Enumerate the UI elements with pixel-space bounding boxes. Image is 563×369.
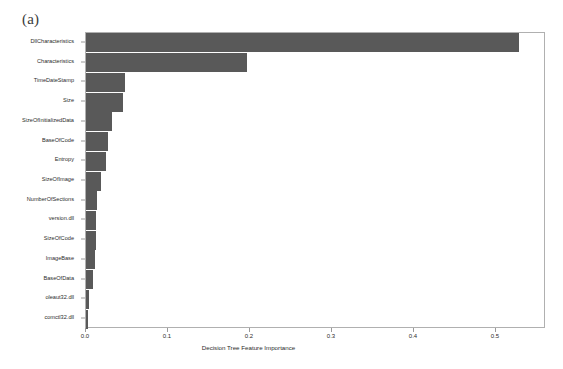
x-tick-mark bbox=[495, 328, 496, 332]
bar-fill bbox=[86, 53, 247, 72]
x-tick-mark bbox=[85, 328, 86, 332]
y-tick-label: BaseOfData bbox=[44, 276, 74, 282]
bar-fill bbox=[86, 73, 125, 92]
y-tick-label: TimeDateStamp bbox=[34, 79, 74, 85]
bar-version-dll bbox=[86, 211, 96, 230]
bar-characteristics bbox=[86, 53, 247, 72]
x-tick-label: 0.5 bbox=[491, 333, 499, 339]
plot-area bbox=[85, 32, 545, 328]
bar-fill bbox=[86, 191, 97, 210]
x-tick-mark bbox=[413, 328, 414, 332]
x-tick-label: 0.1 bbox=[163, 333, 171, 339]
figure-panel: (a) DllCharacteristicsCharacteristicsTim… bbox=[0, 0, 563, 369]
x-tick-mark bbox=[249, 328, 250, 332]
y-tick-label: version.dll bbox=[49, 217, 74, 223]
x-tick-mark bbox=[167, 328, 168, 332]
bar-sizeofimage bbox=[86, 172, 101, 191]
bar-size bbox=[86, 93, 123, 112]
y-tick-label: ImageBase bbox=[46, 256, 74, 262]
y-tick-label: Size bbox=[63, 98, 74, 104]
y-tick-label: SizeOfInitializedData bbox=[22, 118, 74, 124]
y-tick-label: comctl32.dll bbox=[44, 315, 74, 321]
bar-baseofcode bbox=[86, 132, 108, 151]
x-tick-label: 0.2 bbox=[245, 333, 253, 339]
bar-fill bbox=[86, 33, 519, 52]
x-axis-title: Decision Tree Feature Importance bbox=[0, 344, 563, 351]
y-tick-label: Entropy bbox=[55, 157, 74, 163]
bar-comctl32-dll bbox=[86, 310, 88, 329]
bar-fill bbox=[86, 290, 89, 309]
y-tick-label: BaseOfCode bbox=[42, 138, 74, 144]
y-tick-label: NumberOfSections bbox=[27, 197, 74, 203]
bar-fill bbox=[86, 310, 88, 329]
x-tick-label: 0.0 bbox=[81, 333, 89, 339]
bar-fill bbox=[86, 250, 95, 269]
y-tick-label: oleaut32.dll bbox=[45, 296, 74, 302]
x-tick-label: 0.3 bbox=[327, 333, 335, 339]
y-tick-label: SizeOfCode bbox=[44, 236, 74, 242]
bar-fill bbox=[86, 172, 101, 191]
bar-oleaut32-dll bbox=[86, 290, 89, 309]
bar-fill bbox=[86, 152, 106, 171]
x-tick-label: 0.4 bbox=[409, 333, 417, 339]
y-axis-labels: DllCharacteristicsCharacteristicsTimeDat… bbox=[0, 32, 80, 328]
y-tick-label: Characteristics bbox=[37, 59, 74, 65]
bar-sizeofcode bbox=[86, 231, 96, 250]
bars-layer bbox=[86, 33, 544, 327]
bar-fill bbox=[86, 231, 96, 250]
bar-fill bbox=[86, 270, 93, 289]
y-tick-label: DllCharacteristics bbox=[30, 39, 74, 45]
x-axis-title-text: Decision Tree Feature Importance bbox=[202, 344, 296, 351]
bar-fill bbox=[86, 112, 112, 131]
bar-fill bbox=[86, 132, 108, 151]
bar-fill bbox=[86, 211, 96, 230]
bar-entropy bbox=[86, 152, 106, 171]
bar-fill bbox=[86, 93, 123, 112]
y-tick-label: SizeOfImage bbox=[42, 177, 74, 183]
bar-sizeofinitializeddata bbox=[86, 112, 112, 131]
bar-numberofsections bbox=[86, 191, 97, 210]
bar-timedatestamp bbox=[86, 73, 125, 92]
bar-dllcharacteristics bbox=[86, 33, 519, 52]
panel-label: (a) bbox=[22, 11, 39, 28]
bar-imagebase bbox=[86, 250, 95, 269]
x-tick-mark bbox=[331, 328, 332, 332]
bar-baseofdata bbox=[86, 270, 93, 289]
